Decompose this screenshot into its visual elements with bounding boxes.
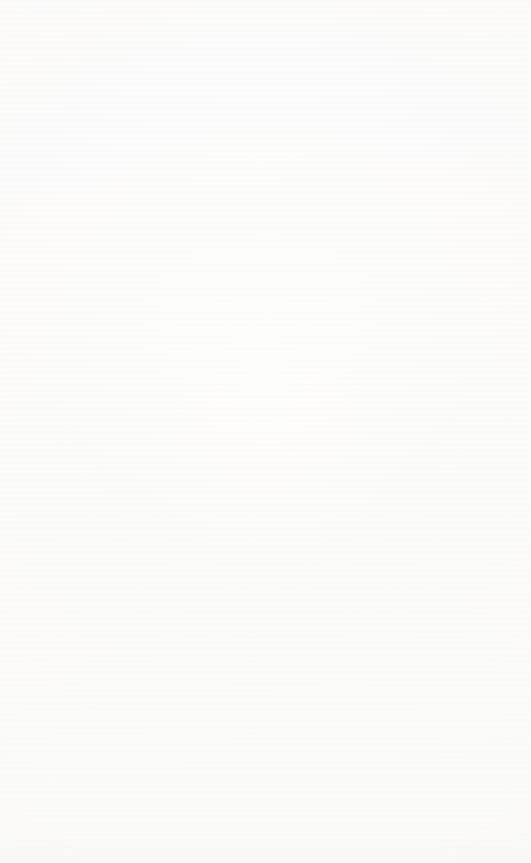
paper-texture bbox=[0, 0, 531, 863]
dot-grid-page bbox=[0, 0, 531, 863]
dot-grid bbox=[0, 0, 531, 863]
paper-grain bbox=[0, 0, 531, 863]
page-edge-shadow bbox=[0, 837, 531, 863]
